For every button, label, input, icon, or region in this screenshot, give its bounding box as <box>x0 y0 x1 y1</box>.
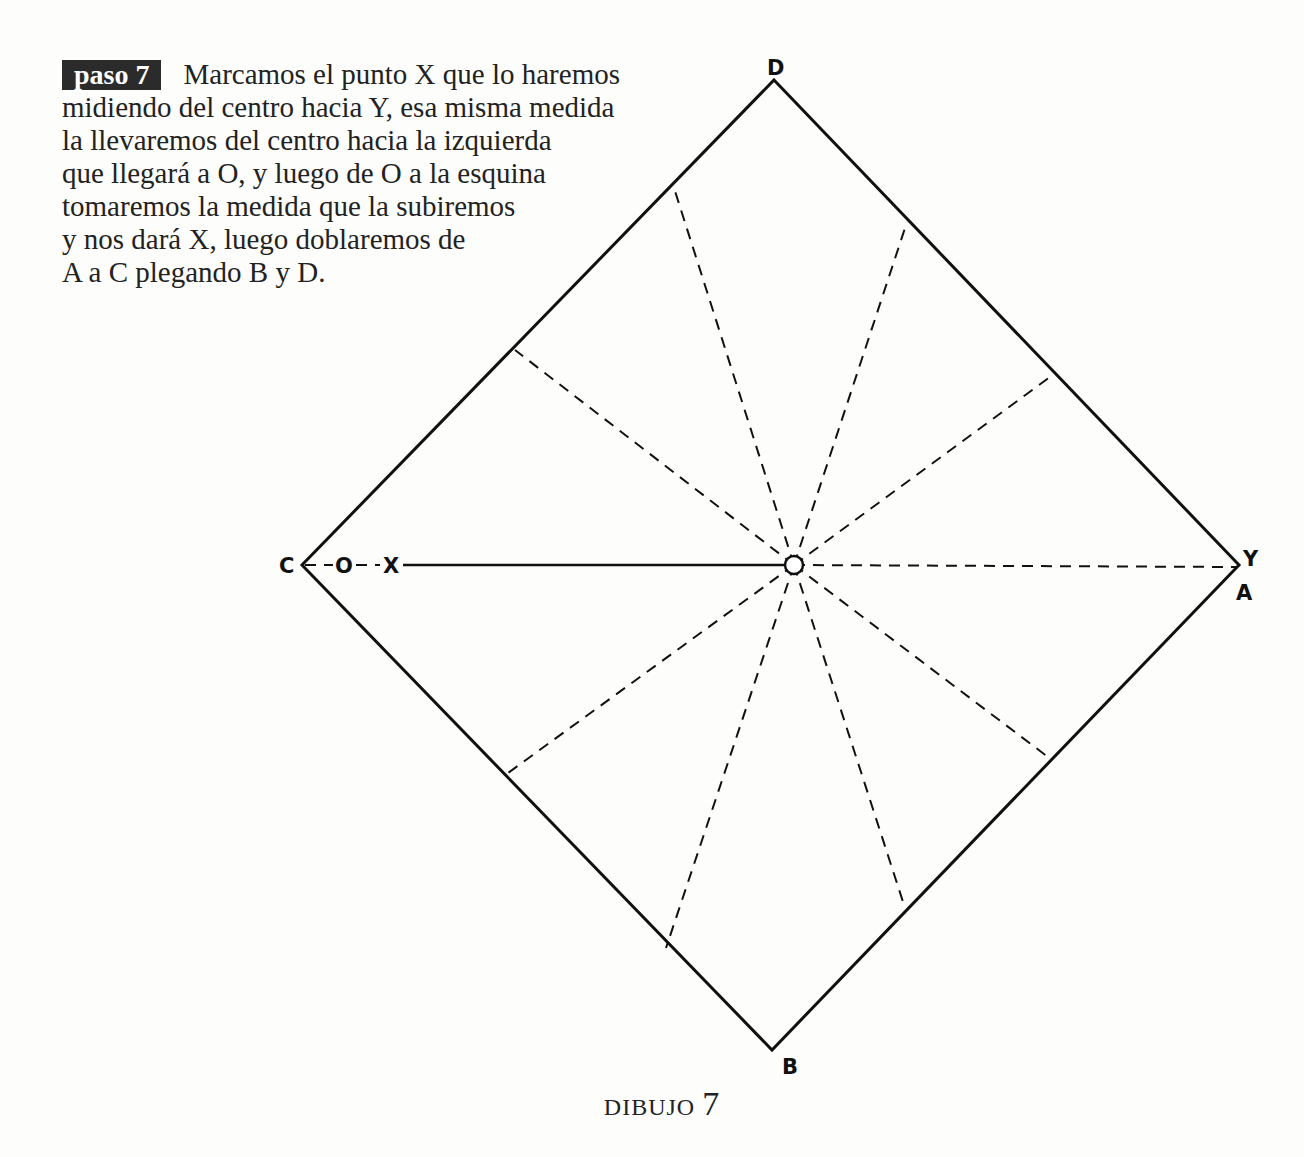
center-point <box>785 556 803 574</box>
label-c: C <box>279 554 294 578</box>
fold-diagram: D B C O X Y A <box>0 0 1304 1157</box>
caption-text: DIBUJO <box>604 1094 695 1120</box>
label-o: O <box>335 554 353 578</box>
caption-number: 7 <box>702 1085 720 1122</box>
crease-lines <box>305 188 1237 948</box>
label-d: D <box>767 56 784 80</box>
label-y: Y <box>1242 547 1259 571</box>
label-a: A <box>1236 581 1253 605</box>
figure-caption: DIBUJO 7 <box>0 1085 1304 1123</box>
label-x: X <box>383 554 399 578</box>
label-b: B <box>782 1055 798 1079</box>
